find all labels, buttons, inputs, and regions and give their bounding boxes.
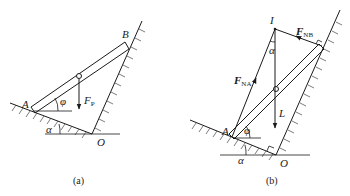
label-O-b: O xyxy=(280,157,288,169)
label-B-a: B xyxy=(122,28,129,40)
label-alpha-top-b: α xyxy=(269,44,275,56)
alpha-arc-a xyxy=(59,124,60,134)
phi-arc-a xyxy=(55,98,58,111)
wall-a xyxy=(92,21,145,134)
label-A-a: A xyxy=(21,98,29,110)
caption-b: (b) xyxy=(266,175,278,187)
label-L-b: L xyxy=(278,107,285,119)
label-fnb: FNB xyxy=(295,25,313,39)
inclined-plane-b xyxy=(190,120,276,160)
alpha-arc-top-b xyxy=(270,41,275,42)
label-force-a: FP xyxy=(83,94,95,108)
panel-a: A B O φ α FP (a) xyxy=(10,21,145,187)
label-O-a: O xyxy=(97,136,105,148)
label-A-b: A xyxy=(221,125,229,137)
caption-a: (a) xyxy=(73,175,84,187)
panel-b: I α FNB FNA L A φ α O (b) xyxy=(190,10,342,187)
center-of-mass-a xyxy=(77,74,82,79)
statics-figure: A B O φ α FP (a) xyxy=(0,0,350,196)
label-fna: FNA xyxy=(233,74,251,88)
point-I-dot xyxy=(274,28,277,31)
alpha-arc-bottom-b xyxy=(245,145,246,155)
label-I-b: I xyxy=(269,14,275,26)
label-phi-b: φ xyxy=(244,124,250,136)
center-of-mass-b xyxy=(274,87,279,92)
right-angle-mark-o-b xyxy=(267,146,274,151)
label-alpha-bottom-b: α xyxy=(238,154,244,166)
label-alpha-a: α xyxy=(46,123,52,135)
label-phi-a: φ xyxy=(60,95,66,107)
